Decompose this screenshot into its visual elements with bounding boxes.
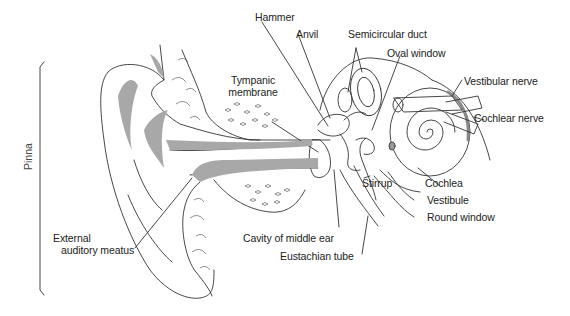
label-vestibule: Vestibule [427,194,469,206]
label-cochlear-nerve: Cochlear nerve [474,112,544,124]
pinna-label: Pinna [22,143,34,170]
label-tympanic-line2: membrane [218,86,288,98]
label-oval-window: Oval window [387,47,445,59]
label-external-auditory-meatus: External auditory meatus [53,232,134,256]
pinna-bracket [40,62,44,295]
label-vestibular-nerve: Vestibular nerve [464,75,538,87]
ear-illustration [0,0,570,316]
label-cavity-of-middle-ear: Cavity of middle ear [243,232,334,244]
label-tympanic-line1: Tympanic [218,74,288,86]
label-anvil: Anvil [296,28,318,40]
label-eustachian-tube: Eustachian tube [280,250,354,262]
label-eam-line2: auditory meatus [53,244,134,256]
label-hammer: Hammer [255,11,295,23]
label-cochlea: Cochlea [425,177,463,189]
ear-anatomy-diagram: Pinna Hammer Anvil Semicircular duct Ova… [0,0,570,316]
label-stirrup: Stirrup [362,177,392,189]
label-tympanic-membrane: Tympanic membrane [218,74,288,98]
label-eam-line1: External [53,232,134,244]
label-round-window: Round window [427,211,495,223]
label-semicircular-duct: Semicircular duct [348,28,427,40]
